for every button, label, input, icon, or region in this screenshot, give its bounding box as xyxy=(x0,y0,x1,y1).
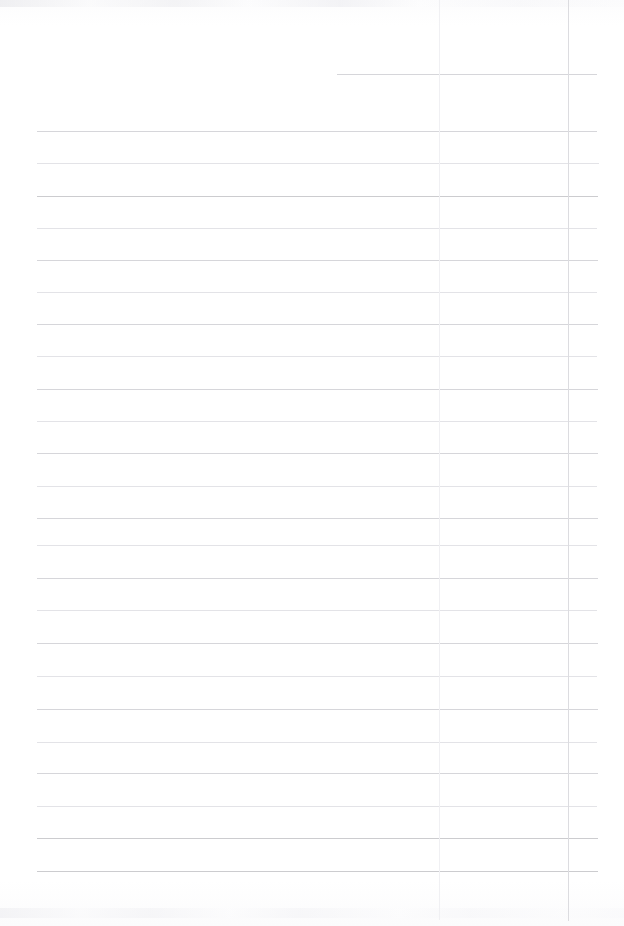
ruling-line-horizontal xyxy=(37,260,598,261)
scan-artifact-bottom xyxy=(0,908,624,918)
ruling-line-horizontal xyxy=(37,131,597,132)
ruling-line-horizontal xyxy=(37,389,598,390)
ruling-line-horizontal xyxy=(37,578,598,579)
scan-artifact-top xyxy=(0,0,624,7)
ruling-line-horizontal xyxy=(37,324,598,325)
ruling-line-horizontal xyxy=(37,228,597,229)
ruling-line-horizontal xyxy=(37,806,597,807)
ruling-line-horizontal xyxy=(37,453,598,454)
ruling-line-horizontal xyxy=(37,838,598,839)
ruling-line-horizontal xyxy=(37,163,599,164)
ruling-line-vertical-margin xyxy=(439,0,440,920)
ruling-line-horizontal xyxy=(37,545,597,546)
ruling-line-horizontal xyxy=(37,676,597,677)
ruling-line-horizontal xyxy=(37,610,597,611)
ruling-line-vertical-column xyxy=(568,0,569,921)
ruling-line-horizontal xyxy=(337,74,597,75)
ruling-line-horizontal xyxy=(37,518,598,519)
scanned-page xyxy=(0,0,624,926)
ruling-line-horizontal xyxy=(37,709,598,710)
ruling-line-horizontal xyxy=(37,196,598,197)
paper-surface xyxy=(0,0,624,926)
ruling-line-horizontal xyxy=(37,643,598,644)
ruling-line-horizontal xyxy=(37,742,597,743)
ruling-line-horizontal xyxy=(37,486,597,487)
ruling-line-horizontal xyxy=(37,773,598,774)
ruling-line-horizontal xyxy=(37,871,598,872)
ruling-line-horizontal xyxy=(37,356,597,357)
ruling-line-horizontal xyxy=(37,421,597,422)
ruling-line-horizontal xyxy=(37,292,597,293)
